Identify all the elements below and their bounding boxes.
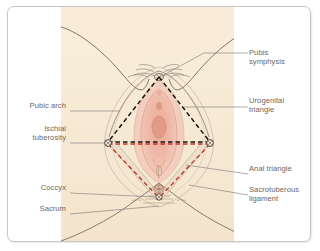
urethral-opening xyxy=(156,103,161,110)
clitoris xyxy=(157,90,161,95)
figure-stage: Pubis symphysis Urogenital triangle Anal… xyxy=(8,7,310,241)
label-urogenital-triangle: Urogenital triangle xyxy=(249,96,284,115)
label-coccyx: Coccyx xyxy=(8,183,66,192)
label-sacrum: Sacrum xyxy=(8,204,66,213)
figure-card: Pubis symphysis Urogenital triangle Anal… xyxy=(7,6,311,242)
illustration-body xyxy=(61,27,257,241)
label-pubis-symphysis: Pubis symphysis xyxy=(249,48,285,67)
vaginal-introitus xyxy=(152,116,166,138)
label-anal-triangle: Anal triangle xyxy=(249,164,292,173)
label-pubic-arch: Pubic arch xyxy=(8,101,66,110)
label-ischial-tuberosity: Ischial tuberosity xyxy=(8,124,66,143)
label-sacrotuberous-ligament: Sacrotuberous ligament xyxy=(249,185,299,204)
